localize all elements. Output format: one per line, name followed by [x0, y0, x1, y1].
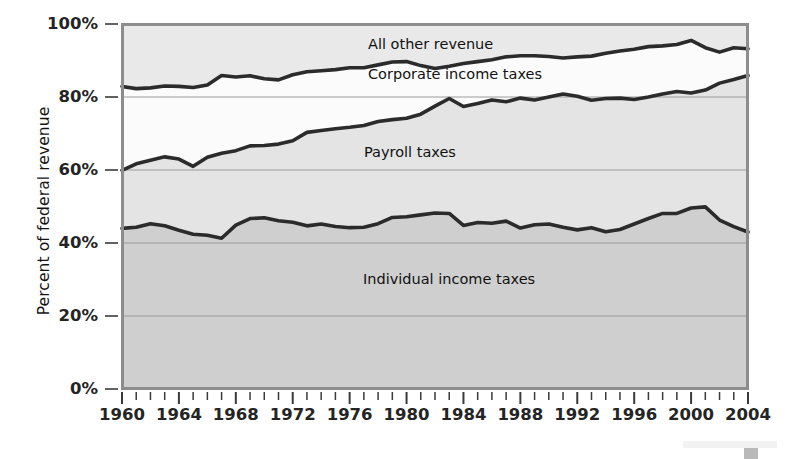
- series-label-individual-income-taxes: Individual income taxes: [363, 272, 535, 287]
- series-label-payroll-taxes: Payroll taxes: [364, 145, 456, 160]
- page-edge-smudge: [683, 441, 777, 448]
- series-label-all-other-revenue: All other revenue: [368, 37, 493, 52]
- corner-mark: [744, 448, 758, 459]
- series-label-corporate-income-taxes: Corporate income taxes: [368, 67, 542, 82]
- federal-revenue-composition-chart: Percent of federal revenue 0%20%40%60%80…: [0, 0, 791, 459]
